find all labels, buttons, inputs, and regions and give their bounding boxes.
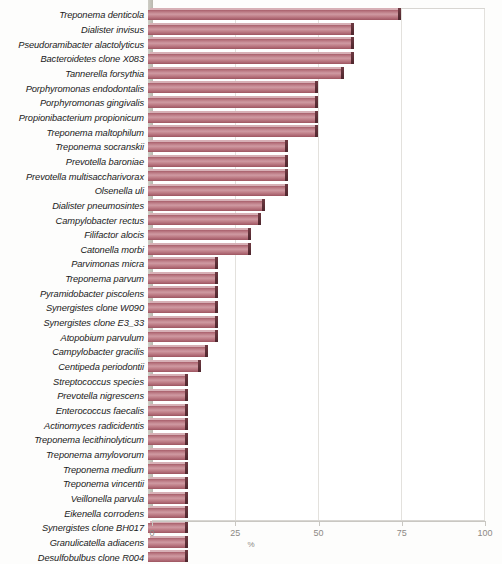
bar (148, 171, 288, 181)
bar-track (148, 301, 502, 316)
bar-track (148, 448, 502, 463)
bar-row: Synergistes clone W090 (0, 301, 502, 316)
category-label: Treponema lecithinolyticum (0, 435, 148, 445)
bar (148, 25, 354, 35)
bar-row: Treponema amylovorum (0, 448, 502, 463)
category-label: Centipeda periodontii (0, 362, 148, 372)
bar-row: Desulfobulbus clone R004 (0, 550, 502, 564)
bar-track (148, 550, 502, 564)
category-label: Prevotella baroniae (0, 157, 148, 167)
bar (148, 98, 318, 108)
category-label: Atopobium parvulum (0, 333, 148, 343)
bar-track (148, 389, 502, 404)
x-tick-label: 25 (230, 528, 240, 538)
x-tick (319, 521, 320, 526)
bar-track (148, 316, 502, 331)
bar-row: Filifactor alocis (0, 228, 502, 243)
bar-row: Prevotella nigrescens (0, 389, 502, 404)
bar-row: Atopobium parvulum (0, 330, 502, 345)
bar-row: Enterococcus faecalis (0, 404, 502, 419)
bar-row: Synergistes clone E3_33 (0, 316, 502, 331)
bar-track (148, 155, 502, 170)
category-label: Pseudoramibacter alactolyticus (0, 40, 148, 50)
category-label: Porphyromonas gingivalis (0, 98, 148, 108)
bar-track (148, 213, 502, 228)
category-label: Treponema denticola (0, 10, 148, 20)
bar-track (148, 8, 502, 23)
category-label: Treponema socranskii (0, 142, 148, 152)
category-label: Campylobacter gracilis (0, 347, 148, 357)
bar-track (148, 433, 502, 448)
category-label: Propionibacterium propionicum (0, 113, 148, 123)
bar-row: Porphyromonas gingivalis (0, 96, 502, 111)
bar-row: Eikenella corrodens (0, 506, 502, 521)
category-label: Treponema parvum (0, 274, 148, 284)
category-label: Filifactor alocis (0, 230, 148, 240)
bar-row: Catonella morbi (0, 243, 502, 258)
bar-track (148, 404, 502, 419)
bar (148, 274, 218, 284)
bar (148, 332, 218, 342)
bar (148, 127, 318, 137)
x-tick-label: 100 (477, 528, 492, 538)
bar (148, 245, 251, 255)
bar-track (148, 521, 502, 536)
category-label: Treponema medium (0, 465, 148, 475)
bar-track (148, 199, 502, 214)
bar-track (148, 184, 502, 199)
bar-track (148, 140, 502, 155)
x-tick (485, 521, 486, 526)
bar (148, 508, 188, 518)
bar (148, 157, 288, 167)
category-label: Veillonella parvula (0, 494, 148, 504)
x-axis-title: % (0, 540, 502, 549)
bar (148, 464, 188, 474)
bar (148, 406, 188, 416)
bar-row: Actinomyces radicidentis (0, 418, 502, 433)
bar-row: Pseudoramibacter alactolyticus (0, 37, 502, 52)
bar (148, 494, 188, 504)
bar-row: Treponema maltophilum (0, 125, 502, 140)
category-label: Treponema maltophilum (0, 128, 148, 138)
bar (148, 201, 265, 211)
category-label: Prevotella nigrescens (0, 391, 148, 401)
bar (148, 10, 401, 20)
bar (148, 347, 208, 357)
category-label: Desulfobulbus clone R004 (0, 553, 148, 563)
bar-row: Prevotella multisaccharivorax (0, 169, 502, 184)
bar (148, 83, 318, 93)
category-label: Synergistes clone W090 (0, 303, 148, 313)
bar-row: Bacteroidetes clone X083 (0, 52, 502, 67)
bar (148, 259, 218, 269)
bar (148, 69, 344, 79)
bar (148, 215, 261, 225)
bar-row: Dialister pneumosintes (0, 199, 502, 214)
bar-track (148, 462, 502, 477)
category-label: Synergistes clone E3_33 (0, 318, 148, 328)
category-label: Eikenella corrodens (0, 509, 148, 519)
bar-track (148, 272, 502, 287)
bar-row: Campylobacter rectus (0, 213, 502, 228)
bar (148, 450, 188, 460)
bar-row: Pyramidobacter piscolens (0, 286, 502, 301)
bar-track (148, 477, 502, 492)
category-label: Bacteroidetes clone X083 (0, 54, 148, 64)
bar-row: Campylobacter gracilis (0, 345, 502, 360)
bar-track (148, 330, 502, 345)
bar-row: Centipeda periodontii (0, 360, 502, 375)
category-label: Campylobacter rectus (0, 216, 148, 226)
bar-track (148, 96, 502, 111)
bar-row: Propionibacterium propionicum (0, 111, 502, 126)
category-label: Prevotella multisaccharivorax (0, 172, 148, 182)
bar-track (148, 67, 502, 82)
bar-row: Treponema socranskii (0, 140, 502, 155)
bar-track (148, 81, 502, 96)
category-label: Dialister invisus (0, 25, 148, 35)
category-label: Pyramidobacter piscolens (0, 289, 148, 299)
bar-row: Treponema denticola (0, 8, 502, 23)
bar (148, 435, 188, 445)
bar (148, 288, 218, 298)
bar (148, 479, 188, 489)
bar-track (148, 23, 502, 38)
category-label: Synergistes clone BH017 (0, 523, 148, 533)
